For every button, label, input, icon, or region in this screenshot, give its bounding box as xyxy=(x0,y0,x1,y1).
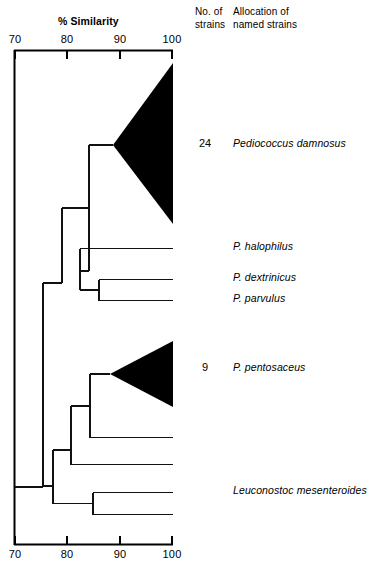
wedge-group xyxy=(110,63,173,407)
wedge-pediococcus-damnosus xyxy=(113,63,173,224)
count-column-header-line2: strains xyxy=(195,19,225,31)
axis-title: % Similarity xyxy=(58,15,119,27)
bottom-tick-label-70: 70 xyxy=(9,548,22,561)
top-tick-label-80: 80 xyxy=(61,33,74,46)
taxon-label-p-halophilus: P. halophilus xyxy=(233,240,293,252)
taxon-label-leuconostoc-mesenteroides: Leuconostoc mesenteroides xyxy=(233,484,367,496)
taxon-label-p-dextrinicus: P. dextrinicus xyxy=(233,271,296,283)
top-tick-label-70: 70 xyxy=(9,33,22,46)
taxon-label-p-parvulus: P. parvulus xyxy=(233,292,285,304)
wedge-p-pentosaceus xyxy=(110,341,173,407)
strain-count-pediococcus-damnosus: 24 xyxy=(199,137,211,150)
branch-group xyxy=(15,145,173,515)
bottom-tick-label-100: 100 xyxy=(163,548,182,561)
strain-count-p-pentosaceus: 9 xyxy=(202,361,208,374)
bottom-tick-label-90: 90 xyxy=(114,548,127,561)
taxon-label-p-pentosaceus: P. pentosaceus xyxy=(233,361,305,373)
top-tick-label-90: 90 xyxy=(114,33,127,46)
bottom-tick-label-80: 80 xyxy=(61,548,74,561)
taxon-label-pediococcus-damnosus: Pediococcus damnosus xyxy=(233,137,346,149)
allocation-column-header-line2: named strains xyxy=(233,19,297,31)
allocation-column-header-line1: Allocation of xyxy=(233,6,289,18)
count-column-header-line1: No. of xyxy=(195,6,222,18)
top-tick-label-100: 100 xyxy=(163,33,182,46)
